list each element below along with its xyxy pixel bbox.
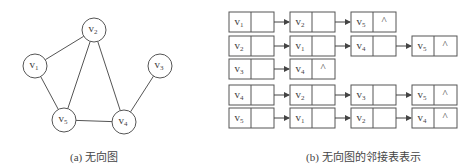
diagram-canvas: v1v2v3v4v5 v1v2v5^v2v1v4v5^v3v4^v4v2v3v5… [0, 0, 469, 164]
head-node: v4 [229, 85, 274, 105]
head-node: v2 [229, 36, 274, 56]
list-node: v4^ [412, 108, 457, 128]
adjacency-row-v4: v4v2v3v5^ [229, 85, 457, 105]
adjacency-row-v1: v1v2v5^ [229, 12, 396, 32]
adjacency-list: v1v2v5^v2v1v4v5^v3v4^v4v2v3v5^v5v1v2v4^ [229, 12, 457, 128]
list-node: v2 [351, 108, 396, 128]
list-node: v3 [351, 85, 396, 105]
null-pointer: ^ [442, 87, 448, 99]
adjacency-list-caption: (b) 无向图的邻接表表示 [306, 148, 421, 164]
edge-v1-v2 [45, 36, 84, 59]
adjacency-row-v2: v2v1v4v5^ [229, 36, 457, 56]
edge-v2-v5 [68, 41, 90, 108]
node-v4: v4 [112, 110, 136, 134]
edge-v5-v4 [76, 120, 112, 121]
edge-v3-v4 [130, 76, 153, 112]
list-node: v4^ [290, 59, 335, 79]
null-pointer: ^ [381, 14, 387, 26]
list-node: v5^ [412, 85, 457, 105]
node-v3: v3 [148, 54, 172, 78]
list-node: v1 [290, 36, 335, 56]
list-node: v4 [351, 36, 396, 56]
head-node: v1 [229, 12, 274, 32]
head-node: v3 [229, 59, 274, 79]
null-pointer: ^ [320, 61, 326, 73]
list-node: v1 [290, 108, 335, 128]
null-pointer: ^ [442, 110, 448, 122]
edge-v1-v5 [41, 77, 59, 110]
undirected-graph: v1v2v3v4v5 [23, 18, 172, 134]
node-v2: v2 [82, 18, 106, 42]
null-pointer: ^ [442, 38, 448, 50]
list-node: v5^ [351, 12, 396, 32]
list-node: v2 [290, 85, 335, 105]
adjacency-row-v5: v5v1v2v4^ [229, 108, 457, 128]
node-v1: v1 [23, 54, 47, 78]
node-v5: v5 [52, 108, 76, 132]
edge-v2-v4 [98, 41, 121, 110]
list-node: v2 [290, 12, 335, 32]
graph-caption: (a) 无向图 [70, 148, 118, 164]
head-node: v5 [229, 108, 274, 128]
adjacency-row-v3: v3v4^ [229, 59, 335, 79]
list-node: v5^ [412, 36, 457, 56]
